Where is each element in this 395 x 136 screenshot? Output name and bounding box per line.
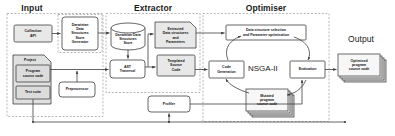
node-collection-api [14, 25, 52, 42]
node-extracted-ds [155, 22, 196, 48]
node-program-source [16, 65, 50, 82]
section-title-optimiser: Optimiser [203, 3, 329, 13]
node-mutated-source [246, 89, 294, 117]
node-templated-source [157, 55, 195, 76]
section-title-extractor: Extractor [106, 3, 200, 13]
edge-store-to-extracted [148, 34, 154, 55]
diagram-vector-layer [0, 0, 395, 136]
node-profiler [148, 96, 190, 112]
node-test-suite [16, 86, 50, 99]
node-parameter-optimisation [226, 25, 306, 40]
node-code-generation [209, 61, 244, 78]
node-preprocessor [59, 82, 95, 97]
section-title-input: Input [7, 3, 57, 13]
node-optimised-source [338, 54, 386, 82]
node-evaluation [290, 61, 325, 78]
node-dds-store [111, 23, 145, 50]
arc-mutated-to-codegen [226, 79, 249, 93]
diagram-canvas: Input Extractor Optimiser Output Collect… [0, 0, 395, 136]
node-dds-generator [62, 17, 98, 50]
label-nsga-ii: NSGA-II [248, 64, 278, 73]
node-ast-traversal [110, 60, 145, 78]
section-title-output: Output [336, 34, 386, 44]
arc-paramopt-to-evaluation [294, 37, 309, 60]
